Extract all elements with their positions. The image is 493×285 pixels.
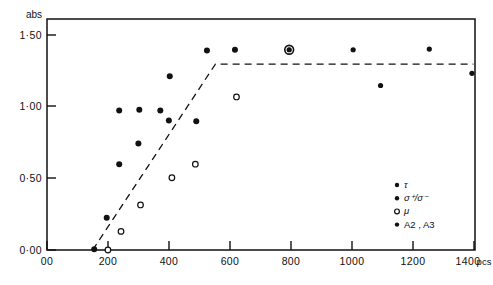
y-axis-tick-labels: 1·50 1·00 0·50 0·00: [19, 29, 42, 256]
y-axis-ticks: [47, 35, 56, 250]
legend-label: μ: [403, 205, 410, 216]
plot-legend: τσ⁺/σ⁻μA2 , A3: [395, 179, 435, 230]
series-A2-A3: [285, 45, 294, 54]
legend-entry: A2 , A3: [395, 219, 435, 230]
data-point: [469, 71, 474, 76]
legend-marker: [395, 209, 400, 214]
x-tick-label-00: 00: [41, 255, 53, 267]
x-tick-label-800: 800: [282, 255, 301, 267]
data-point: [118, 229, 124, 235]
legend-label: τ: [404, 179, 409, 190]
x-tick-label-1000: 1000: [340, 255, 365, 267]
y-axis-label: abs: [26, 9, 42, 20]
data-point: [136, 107, 142, 113]
y-tick-label-0-00: 0·00: [19, 244, 42, 256]
x-axis-unit-label: pcs: [477, 256, 492, 267]
data-point: [157, 108, 163, 114]
legend-entry: τ: [395, 179, 409, 190]
legend-label: σ⁺/σ⁻: [404, 192, 429, 203]
data-point: [105, 247, 111, 253]
x-axis-ticks: [47, 241, 474, 250]
legend-entry: σ⁺/σ⁻: [395, 192, 429, 203]
data-point: [116, 108, 122, 114]
data-point: [193, 161, 199, 167]
legend-entry: μ: [395, 205, 410, 216]
legend-marker: [395, 196, 399, 200]
series-sigma-plus-sigma-minus: [287, 46, 475, 88]
y-tick-label-1-00: 1·00: [19, 100, 42, 112]
data-point: [234, 94, 240, 100]
x-tick-label-600: 600: [221, 255, 240, 267]
x-axis-tick-labels: 00 200 400 600 800 1000 1200 1400 pcs: [41, 255, 492, 267]
data-point: [193, 118, 199, 124]
legend-marker: [395, 183, 399, 187]
series-mu: [105, 94, 239, 253]
data-point: [104, 215, 110, 221]
x-tick-label-400: 400: [160, 255, 179, 267]
data-point: [116, 161, 122, 167]
data-point: [427, 46, 432, 51]
data-point: [204, 47, 210, 53]
frame-border: [47, 19, 475, 250]
data-point: [166, 118, 172, 124]
scatter-plot: 1·50 1·00 0·50 0·00 abs 00 200 400 600 8…: [0, 0, 493, 285]
data-point: [169, 175, 175, 181]
data-point: [91, 246, 97, 252]
data-point: [378, 83, 383, 88]
y-tick-label-0-50: 0·50: [19, 172, 42, 184]
x-tick-label-200: 200: [99, 255, 118, 267]
data-point: [232, 47, 238, 53]
legend-marker: [395, 222, 399, 226]
data-point: [285, 45, 294, 54]
data-point: [351, 47, 356, 52]
data-point: [135, 140, 141, 146]
data-point: [138, 202, 144, 208]
figure-container: 1·50 1·00 0·50 0·00 abs 00 200 400 600 8…: [0, 0, 493, 285]
x-tick-label-1200: 1200: [401, 255, 426, 267]
plot-frame: [47, 19, 475, 250]
y-tick-label-1-50: 1·50: [19, 29, 42, 41]
data-point: [167, 73, 173, 79]
legend-label: A2 , A3: [404, 219, 435, 230]
series-tau: [91, 47, 238, 253]
